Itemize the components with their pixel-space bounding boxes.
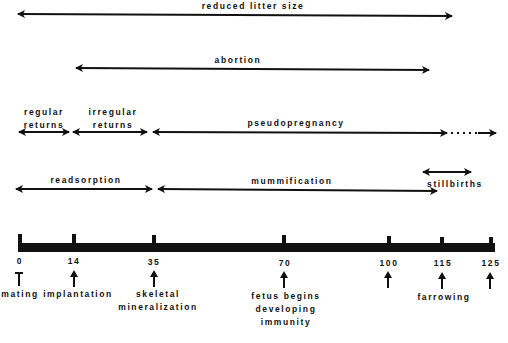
reduced-litter-size-arrow bbox=[18, 14, 452, 16]
tick-label-35: 35 bbox=[148, 256, 161, 269]
pseudopregnancy-arrow bbox=[153, 132, 447, 133]
tick-100 bbox=[387, 236, 391, 248]
mating-marker-icon bbox=[15, 273, 23, 286]
skeletal-mineralization-label: skeletal mineralization bbox=[118, 288, 198, 314]
tick-label-14: 14 bbox=[68, 255, 81, 268]
farrowing-label: farrowing bbox=[417, 291, 470, 304]
day100-arrow-icon bbox=[384, 271, 392, 288]
tick-35 bbox=[152, 235, 156, 247]
irregular-returns-line-2: returns bbox=[89, 119, 138, 132]
tick-70 bbox=[282, 235, 286, 247]
reduced-litter-size-label: reduced litter size bbox=[202, 0, 305, 13]
tick-label-0: 0 bbox=[17, 255, 23, 268]
tick-14 bbox=[72, 234, 76, 246]
tick-0 bbox=[18, 234, 22, 246]
tick-label-125: 125 bbox=[482, 257, 501, 270]
implantation-label: implantation bbox=[43, 288, 113, 301]
tick-label-100: 100 bbox=[380, 257, 399, 270]
mating-label: mating bbox=[1, 288, 38, 301]
irregular-returns-label: irregular returns bbox=[89, 106, 138, 132]
abortion-arrow bbox=[76, 68, 429, 70]
abortion-label: abortion bbox=[215, 54, 262, 67]
immunity-line-2: developing bbox=[251, 303, 320, 316]
implantation-arrow-icon bbox=[70, 270, 78, 287]
mummification-label: mummification bbox=[251, 175, 332, 188]
farrowing-arrow-icon bbox=[438, 272, 446, 289]
regular-returns-label: regular returns bbox=[24, 106, 65, 132]
tick-115 bbox=[440, 237, 444, 249]
immunity-label: fetus begins developing immunity bbox=[251, 290, 320, 329]
regular-returns-line-2: returns bbox=[24, 119, 65, 132]
skeletal-arrow-icon bbox=[150, 270, 158, 287]
tick-125 bbox=[489, 237, 493, 249]
immunity-arrow-icon bbox=[280, 271, 288, 288]
pseudopregnancy-label: pseudopregnancy bbox=[247, 117, 344, 130]
tick-label-70: 70 bbox=[279, 257, 292, 270]
skeletal-line-2: mineralization bbox=[118, 301, 198, 314]
immunity-line-3: immunity bbox=[251, 316, 320, 329]
tick-label-115: 115 bbox=[434, 257, 453, 270]
irregular-returns-line-1: irregular bbox=[89, 106, 138, 119]
timeline-bar bbox=[18, 243, 495, 252]
immunity-line-1: fetus begins bbox=[251, 290, 320, 303]
mummification-arrow bbox=[158, 189, 437, 191]
skeletal-line-1: skeletal bbox=[118, 288, 198, 301]
readsorption-label: readsorption bbox=[50, 174, 121, 187]
stillbirths-label: stillbirths bbox=[427, 178, 483, 191]
regular-returns-line-1: regular bbox=[24, 106, 65, 119]
day125-arrow-icon bbox=[486, 272, 494, 289]
